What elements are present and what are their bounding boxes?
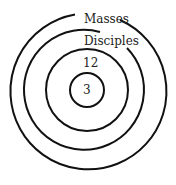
label-disciples: Disciples — [84, 34, 139, 48]
label-masses: Masses — [84, 12, 129, 26]
concentric-circles-diagram: Masses Disciples 12 3 — [0, 0, 176, 185]
label-3: 3 — [83, 83, 91, 97]
label-12: 12 — [83, 56, 98, 70]
